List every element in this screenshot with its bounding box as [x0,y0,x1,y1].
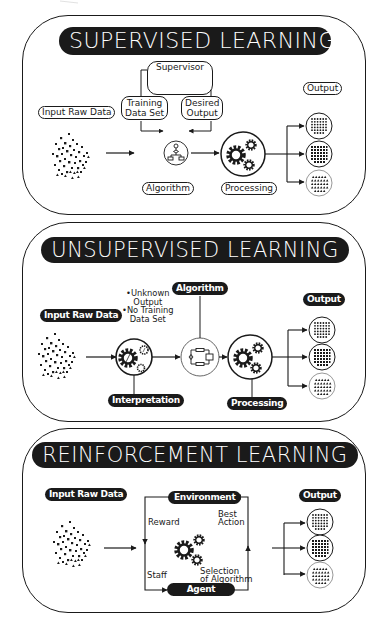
processing-label: Processing [221,182,277,195]
output-square-grid-icon [309,344,335,370]
best-action-label: Best Action [218,510,245,526]
interpretation-label: Interpretation [108,394,184,407]
training-data-set-label: Training Data Set [121,96,168,120]
processing-gears-icon [228,335,272,379]
desired-output-label: Desired Output [181,96,223,120]
output-dot-grid-icon [309,317,335,343]
staff-label: Staff [147,571,167,580]
processing-gears-icon [221,132,265,176]
output-label: Output [303,293,345,306]
algorithm-circuit-icon [181,338,219,376]
output-triangle-grid-icon [307,562,333,588]
processing-label: Processing [227,397,287,410]
interpretation-gears-icon [116,339,152,375]
reinforcement-title: REINFORCEMENT LEARNING [32,442,358,468]
input-data-cloud-icon [38,333,76,379]
output-dot-grid-icon [307,509,333,535]
input-raw-data-label: Input Raw Data [45,488,127,501]
output-label: Output [299,489,341,502]
flowchart-icon [164,141,188,165]
output-label: Output [303,82,342,95]
algorithm-label: Algorithm [142,182,194,195]
algorithm-label: Algorithm [172,282,228,295]
output-dot-grid-icon [306,113,332,139]
output-triangle-grid-icon [306,170,332,196]
output-square-grid-icon [306,141,332,167]
input-raw-data-label: Input Raw Data [40,309,122,322]
agent-gears-icon [177,536,204,565]
input-data-cloud-icon [52,133,90,179]
input-data-cloud-icon [53,521,91,567]
unknown-output-note: •Unknown Output •No Training Data Set [122,289,174,323]
supervised-title: SUPERVISED LEARNING [59,27,331,55]
output-square-grid-icon [307,535,333,561]
supervisor-label: Supervisor [147,61,213,95]
input-raw-data-label: Input Raw Data [38,106,115,119]
output-triangle-grid-icon [309,373,335,399]
unsupervised-title: UNSUPERVISED LEARNING [41,237,349,263]
agent-label: Agent [167,583,235,596]
reward-label: Reward [148,518,180,527]
selection-of-algorithm-label: Selection of Algorithm [200,567,253,583]
environment-label: Environment [168,491,241,504]
